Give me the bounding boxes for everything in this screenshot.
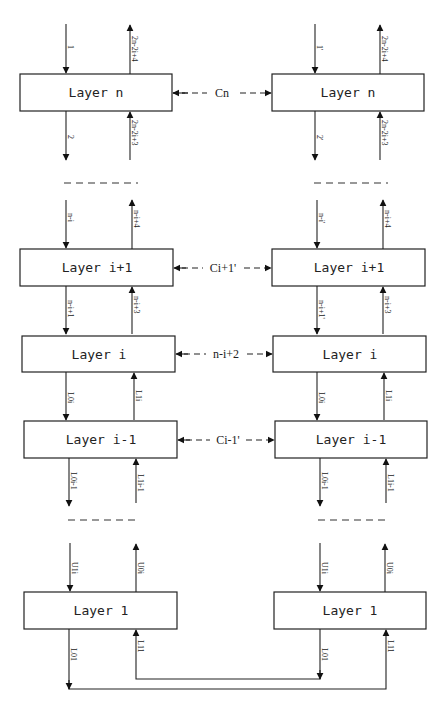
edge-label: 2	[66, 135, 75, 139]
edge-label: n-i+1'	[317, 300, 326, 319]
edge-label: L0i-1	[320, 472, 329, 490]
edge-label: L1i-1	[386, 474, 395, 492]
layer-label: Layer n	[321, 85, 376, 100]
left-layer-1: Layer 1 U1i U0i L01 L11	[24, 543, 177, 661]
edge-label: L01	[320, 648, 329, 661]
connection-ci-plus-1: Ci+1'	[174, 261, 271, 275]
layer-label: Layer i-1	[316, 432, 386, 447]
layer-label: Layer i-1	[66, 432, 136, 447]
edge-label: n-i+4	[132, 210, 141, 227]
edge-label: L1i	[134, 390, 143, 402]
edge-label: U1i	[70, 562, 79, 575]
left-layer-n: Layer n 1 2n-2i+4 2 2n-2i+3	[20, 24, 172, 160]
edge-label: n-i'	[317, 213, 326, 224]
layer-label: Layer n	[69, 85, 124, 100]
connection-label: n-i+2	[213, 347, 239, 361]
connection-label: Ci+1'	[210, 261, 236, 275]
layer-label: Layer 1	[323, 603, 378, 618]
edge-label: U1i	[320, 562, 329, 575]
layer-diagram: Layer n 1 2n-2i+4 2 2n-2i+3 Layer n 1' 2…	[0, 0, 446, 703]
connection-cn: Cn	[173, 86, 271, 100]
edge-label: n-i+4	[383, 210, 392, 227]
edge-label: L1i-1	[136, 474, 145, 492]
edge-label: 2n-2i+4	[130, 36, 139, 61]
edge-label: n-i+3	[383, 296, 392, 313]
edge-label: U0i	[385, 562, 394, 575]
loop-left-out-to-right-in	[69, 629, 386, 689]
edge-label: 2n-2i+3	[380, 120, 389, 145]
left-layer-i-minus-1: Layer i-1 L0i-1 L1i-1	[24, 421, 177, 506]
connection-label: Cn	[215, 86, 229, 100]
left-layer-i-plus-1: Layer i+1 n-i n-i+4 n-i+1 n-i+3	[20, 200, 173, 334]
edge-label: 1	[66, 45, 75, 49]
edge-label: L11	[136, 640, 145, 653]
right-layer-1: Layer 1 U1i U0i L01 L11	[274, 543, 426, 661]
connection-n-i-plus-2: n-i+2	[176, 347, 272, 361]
layer-label: Layer i	[323, 347, 378, 362]
right-layer-i: Layer i L0i L1i	[273, 336, 426, 420]
edge-label: L11	[386, 640, 395, 653]
layer-label: Layer i+1	[314, 260, 384, 275]
edge-label: L0i	[66, 392, 75, 404]
loop-right-out-to-left-in	[136, 629, 320, 679]
left-layer-i: Layer i L0i L1i	[22, 336, 175, 420]
layer-label: Layer i+1	[62, 260, 132, 275]
edge-label: L01	[69, 648, 78, 661]
edge-label: 2n-2i+4	[380, 36, 389, 61]
layer-label: Layer i	[72, 347, 127, 362]
right-layer-i-plus-1: Layer i+1 n-i' n-i+4 n-i+1' n-i+3	[272, 200, 425, 334]
edge-label: L0i	[317, 392, 326, 404]
right-layer-i-minus-1: Layer i-1 L0i-1 L1i-1	[275, 421, 427, 506]
right-layer-n: Layer n 1' 2n-2i+4 2' 2n-2i+3	[272, 24, 424, 160]
edge-label: n-i+3	[132, 296, 141, 313]
edge-label: n-i	[66, 213, 75, 223]
edge-label: 2n-2i+3	[130, 120, 139, 145]
edge-label: n-i+1	[66, 300, 75, 317]
connection-ci-minus-1: Ci-1'	[178, 433, 274, 447]
edge-label: L0i-1	[69, 472, 78, 490]
edge-label: 2'	[315, 135, 324, 141]
edge-label: L1i	[384, 390, 393, 402]
connection-label: Ci-1'	[216, 433, 240, 447]
layer-label: Layer 1	[74, 603, 129, 618]
edge-label: 1'	[315, 45, 324, 51]
edge-label: U0i	[136, 562, 145, 575]
